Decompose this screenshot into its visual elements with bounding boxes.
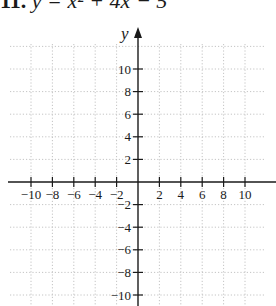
y-axis-arrow-icon [134, 27, 142, 38]
y-tick-label: 8 [125, 84, 132, 99]
y-axis-label: y [119, 24, 129, 43]
x-tick-label: 8 [220, 187, 227, 202]
coordinate-plane: y −10−8−6−4−2246810−10−8−6−4−2246810 [0, 0, 276, 306]
x-tick-label: −4 [88, 187, 102, 202]
y-tick-label: 6 [125, 107, 132, 122]
x-tick-label: 6 [199, 187, 206, 202]
axes: y [8, 24, 276, 306]
x-tick-label: 4 [178, 187, 185, 202]
y-tick-label: −6 [117, 242, 131, 257]
y-tick-label: 10 [118, 62, 131, 77]
y-tick-label: −10 [111, 288, 131, 303]
y-tick-label: −2 [117, 197, 131, 212]
y-tick-label: 2 [125, 152, 132, 167]
x-tick-label: −6 [67, 187, 81, 202]
y-tick-label: 4 [125, 129, 132, 144]
x-tick-label: 10 [239, 187, 252, 202]
x-tick-label: −10 [21, 187, 41, 202]
x-tick-label: 2 [156, 187, 163, 202]
x-tick-label: −8 [45, 187, 59, 202]
y-tick-label: −8 [117, 265, 131, 280]
y-tick-label: −4 [117, 220, 131, 235]
